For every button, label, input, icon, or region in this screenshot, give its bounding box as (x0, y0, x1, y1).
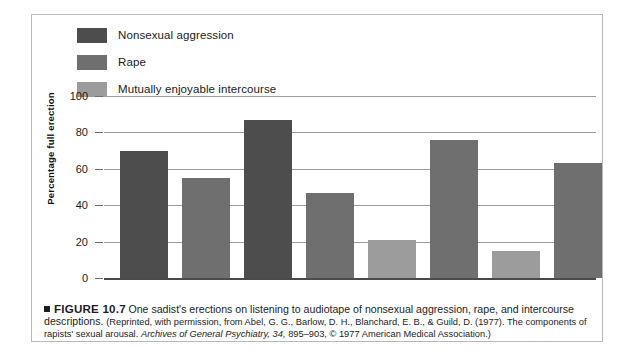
y-tick-mark-80 (95, 132, 103, 133)
bar-8 (554, 163, 602, 278)
y-tick-label-40: 40 (46, 199, 88, 211)
bar-3 (244, 120, 292, 278)
bar-1 (120, 151, 168, 278)
y-tick-mark-60 (95, 169, 103, 170)
caption-bullet-icon (44, 306, 50, 312)
bar-5 (368, 240, 416, 278)
figure-number: FIGURE 10.7 (54, 302, 126, 315)
y-tick-label-60: 60 (46, 163, 88, 175)
y-tick-label-80: 80 (46, 126, 88, 138)
y-tick-mark-40 (95, 205, 103, 206)
bar-7 (492, 251, 540, 278)
y-tick-mark-100 (95, 96, 103, 97)
caption-credit-second: 895–903, © 1977 American Medical Associa… (288, 329, 491, 339)
y-tick-label-0: 0 (46, 272, 88, 284)
plot-area: Percentage full erection 100 80 60 40 20… (32, 15, 604, 307)
x-axis-line (104, 278, 596, 280)
y-tick-mark-0 (95, 278, 103, 279)
figure-panel: Nonsexual aggression Rape Mutually enjoy… (31, 14, 603, 342)
y-tick-mark-20 (95, 242, 103, 243)
bar-2 (182, 178, 230, 278)
bar-group (104, 15, 596, 278)
bar-4 (306, 193, 354, 279)
figure-caption: FIGURE 10.7 One sadist's erections on li… (44, 303, 592, 341)
y-tick-label-20: 20 (46, 236, 88, 248)
y-tick-label-100: 100 (46, 90, 88, 102)
bar-6 (430, 140, 478, 278)
caption-journal-title: Archives of General Psychiatry, 34, (141, 329, 286, 339)
